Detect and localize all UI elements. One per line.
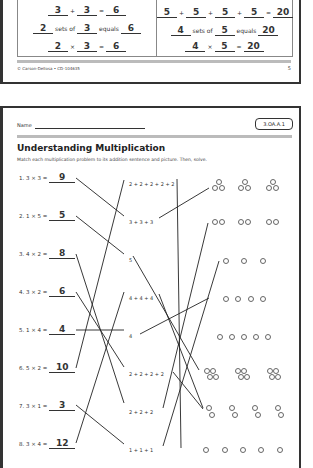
example-left-multiplication: 2×3=6 [18, 42, 156, 52]
example-right-multiplication: 4×5=20 [157, 42, 292, 52]
example-left-addition: 3+3=6 [18, 6, 156, 16]
page-number: 5 [288, 65, 291, 71]
previous-page: 3+3=6 2sets of3equals6 2×3=6 5+5+5+5=20 … [0, 0, 301, 84]
example-right-sets: 4sets of5equals20 [157, 26, 292, 36]
divider-bar [17, 60, 291, 63]
example-left: 3+3=6 2sets of3equals6 2×3=6 [18, 0, 157, 56]
worksheet-page: Name 3.OA.A.1 Understanding Multiplicati… [0, 106, 301, 468]
copyright-footer: © Carson-Dellosa • CD-104635 [17, 66, 80, 71]
example-right-addition: 5+5+5+5=20 [157, 8, 292, 18]
example-left-sets: 2sets of3equals6 [18, 24, 156, 34]
example-box: 3+3=6 2sets of3equals6 2×3=6 5+5+5+5=20 … [17, 0, 293, 57]
example-right: 5+5+5+5=20 4sets of5equals20 4×5=20 [157, 0, 292, 56]
matching-lines [3, 108, 299, 468]
